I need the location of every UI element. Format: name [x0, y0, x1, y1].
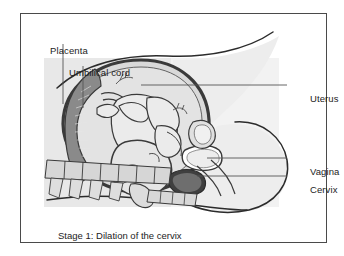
- label-placenta: Placenta: [50, 45, 88, 56]
- label-cervix: Cervix: [310, 184, 338, 195]
- label-uterus: Uterus: [310, 93, 339, 104]
- figure-page: Placenta Umbilical cord Uterus Vagina Ce…: [0, 0, 344, 256]
- label-vagina: Vagina: [310, 166, 339, 177]
- label-umbilical-cord: Umbilical cord: [69, 67, 130, 78]
- figure-caption: Stage 1: Dilation of the cervix: [58, 230, 182, 241]
- pubic-bone-region: [189, 120, 216, 148]
- figure-frame: Placenta Umbilical cord Uterus Vagina Ce…: [20, 13, 327, 243]
